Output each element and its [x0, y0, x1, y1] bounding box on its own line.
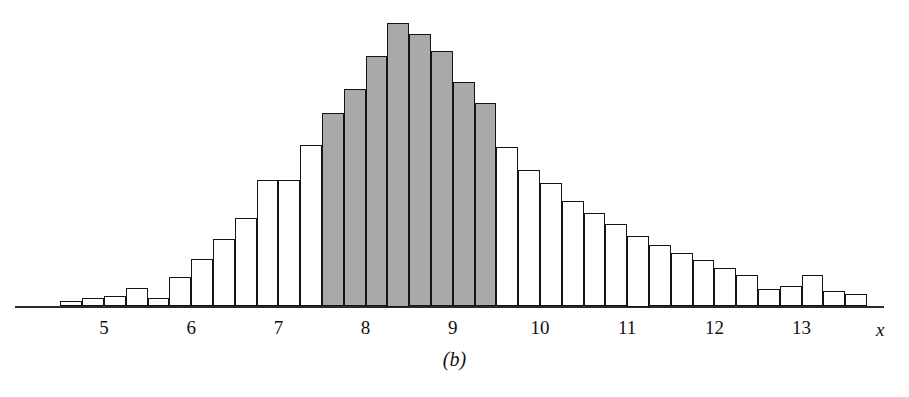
x-axis-tick-label: 12: [689, 318, 739, 337]
histogram-bar: [736, 275, 758, 306]
histogram-bar: [475, 103, 497, 306]
histogram-bar: [213, 239, 235, 307]
histogram-bar: [649, 245, 671, 306]
x-axis-tick-label: 7: [253, 318, 303, 337]
histogram-bar: [82, 298, 104, 307]
histogram-bar: [780, 286, 802, 306]
histogram-plot-area: 5678910111213x: [0, 0, 909, 397]
histogram-figure: 5678910111213x (b): [0, 0, 909, 397]
histogram-bar: [409, 34, 431, 307]
histogram-bar: [257, 180, 279, 306]
histogram-bar: [671, 253, 693, 307]
histogram-bar: [540, 183, 562, 307]
histogram-bar: [60, 301, 82, 306]
x-axis-tick-label: 9: [428, 318, 478, 337]
histogram-bar: [802, 275, 824, 306]
histogram-bar: [584, 213, 606, 307]
x-axis-tick-label: 5: [79, 318, 129, 337]
histogram-bar: [387, 23, 409, 307]
x-axis-tick-label: 10: [515, 318, 565, 337]
x-axis-tick-label: 11: [602, 318, 652, 337]
histogram-bar: [518, 170, 540, 306]
histogram-bar: [344, 89, 366, 307]
histogram-bar: [322, 113, 344, 306]
histogram-bar: [191, 259, 213, 307]
histogram-bar: [823, 291, 845, 307]
histogram-bar: [300, 145, 322, 307]
histogram-bar: [496, 147, 518, 306]
histogram-bar: [169, 277, 191, 306]
histogram-bar: [453, 82, 475, 307]
histogram-bar: [714, 268, 736, 306]
histogram-bar: [235, 218, 257, 307]
histogram-bar: [562, 201, 584, 307]
histogram-bar: [126, 288, 148, 307]
figure-caption: (b): [0, 348, 909, 371]
histogram-bar: [431, 51, 453, 306]
histogram-bar: [627, 236, 649, 307]
histogram-bar: [366, 56, 388, 307]
histogram-bar: [278, 180, 300, 306]
x-axis-tick-label: 6: [166, 318, 216, 337]
histogram-bar: [148, 298, 170, 307]
histogram-bar: [104, 296, 126, 307]
histogram-bar: [605, 224, 627, 306]
histogram-bar: [693, 260, 715, 307]
histogram-bar: [758, 289, 780, 307]
x-axis-name: x: [876, 319, 884, 341]
x-axis-tick-label: 13: [777, 318, 827, 337]
x-axis-tick-label: 8: [341, 318, 391, 337]
histogram-bar: [845, 294, 867, 306]
